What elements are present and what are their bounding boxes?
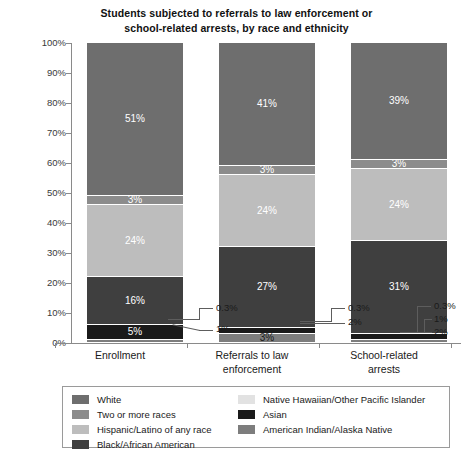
bar-segment[interactable] [87, 342, 183, 343]
callout-leader-line [424, 319, 432, 320]
legend-swatch [72, 395, 89, 404]
x-label-line: Enrollment [56, 349, 184, 363]
bar-segment[interactable]: 51% [87, 42, 183, 195]
callout-leader-line [300, 321, 332, 322]
bar-segment[interactable] [219, 342, 315, 343]
x-axis-tick-mark [451, 343, 452, 348]
bar-segment[interactable]: 3% [351, 159, 447, 168]
callout-arrests-asian: 2% [434, 326, 448, 337]
y-axis-tick-label: 40% [24, 217, 66, 228]
y-axis-tick-label: 50% [24, 187, 66, 198]
callout-enrollment-aian: 1% [216, 323, 230, 334]
chart-page: Students subjected to referrals to law e… [0, 0, 473, 455]
x-axis-label-referrals: Referrals to law enforcement [188, 349, 316, 376]
legend-swatch [238, 410, 255, 419]
callout-leader-line [331, 308, 332, 321]
legend-label: White [97, 392, 121, 407]
legend-swatch [72, 425, 89, 434]
legend-label: Native Hawaiian/Other Pacific Islander [263, 392, 425, 407]
bar-segment-value: 31% [351, 282, 447, 292]
legend-swatch [72, 410, 89, 419]
x-label-line: Referrals to law [188, 349, 316, 363]
bar-segment[interactable]: 3% [219, 333, 315, 342]
bar-segment-value: 27% [219, 282, 315, 292]
y-axis-labels: 0%10%20%30%40%50%60%70%80%90%100% [20, 43, 66, 343]
bar-segment-value: 41% [219, 99, 315, 109]
legend-swatch [72, 440, 89, 449]
chart-title-line-1: Students subjected to referrals to law e… [0, 6, 473, 21]
legend-label: Two or more races [97, 407, 176, 422]
x-label-line: arrests [320, 363, 448, 377]
x-axis-tick-mark [319, 343, 320, 348]
bar-segment-value: 5% [87, 327, 183, 337]
y-axis-tick-label: 80% [24, 97, 66, 108]
x-axis-tick-mark [55, 343, 56, 348]
y-axis-tick-label: 30% [24, 247, 66, 258]
chart-legend: WhiteTwo or more racesHispanic/Latino of… [62, 386, 450, 448]
bar-segment-value: 51% [87, 114, 183, 124]
bar-segment[interactable]: 39% [351, 42, 447, 159]
legend-swatch [238, 395, 255, 404]
x-axis-line [55, 343, 461, 344]
bar-segment[interactable]: 41% [219, 42, 315, 165]
callout-referrals-asian: 2% [348, 316, 362, 327]
bar-segment-value: 39% [351, 96, 447, 106]
bar-segment-value: 24% [219, 206, 315, 216]
bar-segment[interactable]: 24% [219, 174, 315, 246]
bar-segment[interactable]: 24% [351, 168, 447, 240]
bar-segment[interactable] [351, 342, 447, 343]
callout-leader-line [199, 308, 213, 309]
callout-leader-line [417, 306, 418, 332]
bar-segment[interactable]: 3% [87, 195, 183, 204]
bar-segment[interactable]: 16% [87, 276, 183, 324]
bar-segment[interactable]: 24% [87, 204, 183, 276]
x-axis-label-enrollment: Enrollment [56, 349, 184, 363]
callout-leader-line [331, 308, 345, 309]
bar-referrals[interactable]: 41%3%24%27%3% [219, 42, 315, 343]
bar-enrollment[interactable]: 51%3%24%16%5% [87, 42, 183, 343]
legend-swatch [238, 425, 255, 434]
callout-leader-line [424, 319, 425, 332]
callout-arrests-nhpi: 0.3% [434, 300, 456, 311]
bar-segment-value: 16% [87, 296, 183, 306]
callout-arrests-aian: 1% [434, 313, 448, 324]
bar-segment[interactable]: 3% [219, 165, 315, 174]
callout-leader-line [199, 330, 213, 331]
callout-leader-line [168, 319, 200, 320]
legend-label: Hispanic/Latino of any race [97, 422, 212, 437]
x-label-line: enforcement [188, 363, 316, 377]
bar-arrests[interactable]: 39%3%24%31% [351, 42, 447, 343]
bar-segment-value: 24% [351, 200, 447, 210]
y-axis-tick-label: 10% [24, 307, 66, 318]
legend-label: Asian [263, 407, 287, 422]
y-axis-tick-label: 20% [24, 277, 66, 288]
x-axis-tick-mark [187, 343, 188, 348]
bar-segment-value: 24% [87, 236, 183, 246]
bar-segment[interactable]: 5% [87, 324, 183, 339]
legend-label: American Indian/Alaska Native [263, 422, 392, 437]
callout-leader-line [417, 306, 431, 307]
chart-title-line-2: school-related arrests, by race and ethn… [0, 21, 473, 36]
legend-label: Black/African American [97, 437, 195, 452]
callout-leader-line [400, 332, 432, 333]
x-axis-label-arrests: School-related arrests [320, 349, 448, 376]
chart-title: Students subjected to referrals to law e… [0, 6, 473, 35]
callout-leader-line [300, 323, 345, 324]
y-axis-tick-label: 70% [24, 127, 66, 138]
y-axis-tick-label: 90% [24, 67, 66, 78]
callout-leader-line [199, 308, 200, 319]
bar-segment[interactable]: 31% [351, 240, 447, 333]
y-axis-tick-label: 100% [24, 37, 66, 48]
plot-area: 51%3%24%16%5%41%3%24%27%3%39%3%24%31% [72, 43, 455, 343]
y-axis-tick-label: 60% [24, 157, 66, 168]
callout-referrals-nhpi: 0.3% [348, 302, 370, 313]
x-label-line: School-related [320, 349, 448, 363]
callout-enrollment-nhpi: 0.3% [216, 302, 238, 313]
bar-segment[interactable]: 27% [219, 246, 315, 327]
